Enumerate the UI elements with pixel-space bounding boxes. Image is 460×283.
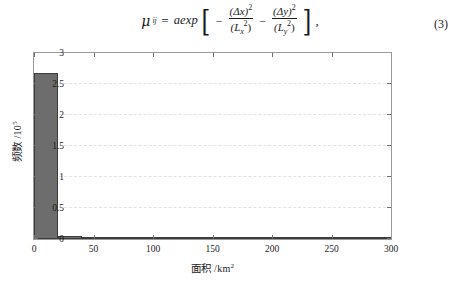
fraction-dy-denominator: (Ly2): [272, 18, 297, 37]
y-tick-label: 1: [24, 172, 64, 182]
x-tick-mark: [332, 235, 333, 239]
gridline-y: [34, 176, 391, 177]
y-tick-label: 1.5: [24, 141, 64, 151]
plot-area: [33, 52, 392, 240]
equation-number: (3): [434, 17, 448, 32]
bracket-open: [: [202, 8, 211, 34]
y-axis-title: 频数 /105: [9, 82, 24, 202]
trailing-comma: ,: [315, 14, 318, 27]
mu-subscript: ij: [152, 17, 156, 25]
x-tick-mark: [94, 53, 95, 57]
histogram-bar: [105, 237, 129, 239]
histogram-bar: [343, 237, 367, 239]
equals-sign: =: [161, 14, 168, 27]
formula: μij = aexp [ − (Δx)2 (Lx2) − (Δy)2 (Ly2)…: [0, 4, 460, 37]
gridline-y: [34, 114, 391, 115]
y-tick-mark: [387, 145, 391, 146]
fraction-dx-denominator: (Lx2): [229, 18, 254, 37]
equation-block: μij = aexp [ − (Δx)2 (Lx2) − (Δy)2 (Ly2)…: [0, 4, 460, 46]
gridline-y: [34, 145, 391, 146]
x-tick-mark: [332, 53, 333, 57]
x-tick-mark: [94, 235, 95, 239]
minus-sign-2: −: [259, 15, 266, 27]
aexp-term: aexp: [174, 14, 198, 27]
x-tick-mark: [272, 53, 273, 57]
gridline-y: [34, 83, 391, 84]
histogram-bar: [129, 237, 153, 239]
x-tick-mark: [213, 235, 214, 239]
histogram-bar: [224, 237, 248, 239]
fraction-dx-numerator: (Δx)2: [228, 4, 255, 18]
mu-symbol: μ: [141, 14, 150, 28]
histogram-bar: [248, 237, 272, 239]
histogram-bar: [34, 73, 58, 239]
histogram-bar: [153, 237, 177, 239]
x-tick-label: 200: [265, 244, 279, 254]
fraction-dx: (Δx)2 (Lx2): [228, 4, 255, 37]
x-tick-mark: [213, 53, 214, 57]
x-tick-label: 0: [32, 244, 37, 254]
y-tick-mark: [387, 176, 391, 177]
y-tick-label: 0: [24, 234, 64, 244]
x-tick-label: 300: [384, 244, 398, 254]
bracket-close: ]: [302, 8, 311, 34]
histogram-bar: [296, 237, 320, 239]
x-tick-label: 50: [89, 244, 99, 254]
gridline-y: [34, 207, 391, 208]
y-tick-label: 3: [24, 48, 64, 58]
x-tick-label: 250: [324, 244, 338, 254]
y-tick-label: 2: [24, 110, 64, 120]
x-tick-mark: [272, 235, 273, 239]
x-tick-mark: [153, 53, 154, 57]
histogram-bar: [272, 237, 296, 239]
y-tick-mark: [387, 207, 391, 208]
y-tick-mark: [387, 114, 391, 115]
y-tick-label: 2.5: [24, 79, 64, 89]
histogram-bar: [177, 237, 201, 239]
x-tick-mark: [153, 235, 154, 239]
x-tick-label: 100: [146, 244, 160, 254]
x-axis-title: 面积 /km2: [0, 260, 425, 275]
histogram-chart: 00.511.522.53 050100150200250300 面积 /km2…: [0, 46, 460, 283]
x-tick-label: 150: [205, 244, 219, 254]
y-tick-mark: [387, 83, 391, 84]
fraction-dy-numerator: (Δy)2: [271, 4, 298, 18]
minus-sign-1: −: [216, 15, 223, 27]
fraction-dy: (Δy)2 (Ly2): [271, 4, 298, 37]
y-tick-label: 0.5: [24, 203, 64, 213]
plot-inner: [34, 53, 391, 239]
